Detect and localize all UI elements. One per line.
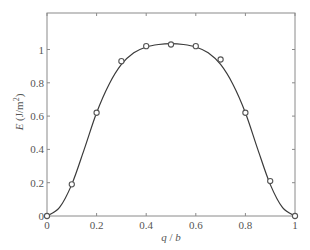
data-point-marker <box>268 178 273 183</box>
data-point-marker <box>243 110 248 115</box>
data-point-marker <box>94 110 99 115</box>
data-point-marker <box>218 57 223 62</box>
data-point-marker <box>144 44 149 49</box>
data-point-marker <box>193 44 198 49</box>
y-tick-label: 0.6 <box>30 110 44 122</box>
curve-path <box>47 44 295 216</box>
x-tick-label: 0.8 <box>239 219 253 231</box>
y-tick-label: 0.8 <box>30 77 44 89</box>
y-tick-label: 0.2 <box>30 177 44 189</box>
x-tick-label: 1 <box>292 219 298 231</box>
data-point-marker <box>44 213 49 218</box>
y-axis-ticks: 00.20.40.60.81 <box>30 44 295 223</box>
y-tick-label: 1 <box>39 44 45 56</box>
y-tick-label: 0 <box>39 210 45 222</box>
data-markers <box>44 42 297 219</box>
data-point-marker <box>292 213 297 218</box>
chart: 00.20.40.60.81 00.20.40.60.81 q / b E (J… <box>0 0 310 250</box>
data-point-marker <box>168 42 173 47</box>
x-tick-label: 0.4 <box>139 219 153 231</box>
x-tick-label: 0.6 <box>189 219 203 231</box>
data-point-marker <box>69 182 74 187</box>
x-tick-label: 0 <box>44 219 50 231</box>
x-axis-label: q / b <box>161 231 181 243</box>
fitted-curve <box>47 44 295 216</box>
y-tick-label: 0.4 <box>30 143 44 155</box>
x-tick-label: 0.2 <box>90 219 104 231</box>
y-axis-label: E (J/m2) <box>12 93 27 131</box>
data-point-marker <box>119 59 124 64</box>
